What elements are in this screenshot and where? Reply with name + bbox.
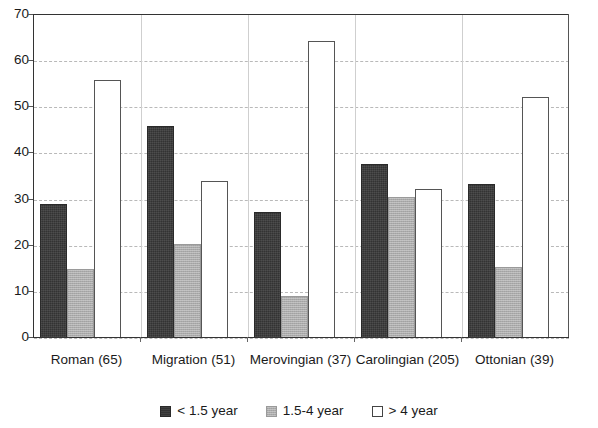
x-axis-tick-mark — [140, 337, 141, 342]
legend-entry: 1.5-4 year — [266, 404, 344, 418]
y-axis-tick-mark — [27, 291, 33, 292]
bar — [495, 267, 522, 338]
legend-swatch-icon — [160, 406, 171, 417]
y-axis-tick-mark — [27, 245, 33, 246]
x-axis-tick-label: Roman (65) — [33, 352, 140, 368]
legend-entry: > 4 year — [372, 404, 438, 418]
x-axis-tick-mark — [354, 337, 355, 342]
category-separator — [355, 15, 356, 338]
bar — [147, 126, 174, 338]
bar — [415, 189, 442, 338]
category-separator — [248, 15, 249, 338]
y-axis-tick-mark — [27, 337, 33, 338]
bar — [388, 197, 415, 338]
y-axis-tick-label: 20 — [3, 238, 29, 252]
legend-label: < 1.5 year — [177, 404, 237, 418]
legend-label: 1.5-4 year — [283, 404, 344, 418]
category-separator — [462, 15, 463, 338]
bar — [94, 80, 121, 338]
legend-swatch-icon — [266, 406, 277, 417]
plot-area — [33, 14, 569, 338]
y-axis-tick-label: 60 — [3, 53, 29, 67]
bar — [254, 212, 281, 338]
bar — [281, 296, 308, 338]
y-axis-tick-mark — [27, 199, 33, 200]
bar — [468, 184, 495, 338]
category-separator — [141, 15, 142, 338]
y-axis-tick-label: 50 — [3, 99, 29, 113]
x-axis-tick-label: Carolingian (205) — [354, 352, 461, 368]
y-axis-tick-mark — [27, 60, 33, 61]
legend-label: > 4 year — [389, 404, 438, 418]
y-axis-tick-label: 30 — [3, 192, 29, 206]
y-axis-tick-mark — [27, 152, 33, 153]
gridline — [34, 338, 569, 339]
y-axis-tick-label: 40 — [3, 145, 29, 159]
x-axis-tick-mark — [461, 337, 462, 342]
y-axis-tick-mark — [27, 106, 33, 107]
bar — [174, 244, 201, 338]
bar — [40, 204, 67, 338]
x-axis-tick-mark — [247, 337, 248, 342]
y-axis-tick-label: 70 — [3, 7, 29, 21]
gridline — [34, 61, 569, 62]
y-axis-labels: 010203040506070 — [0, 0, 29, 345]
y-axis-tick-label: 0 — [3, 330, 29, 344]
x-axis-tick-label: Ottonian (39) — [461, 352, 568, 368]
x-axis-tick-label: Merovingian (37) — [247, 352, 354, 368]
bar-chart: 010203040506070 Roman (65)Migration (51)… — [0, 0, 598, 428]
x-axis-line — [33, 337, 569, 338]
legend-swatch-icon — [372, 406, 383, 417]
bar — [201, 181, 228, 338]
y-axis-tick-mark — [27, 14, 33, 15]
bar — [308, 41, 335, 338]
plot-right-spine — [568, 14, 569, 338]
x-axis-tick-label: Migration (51) — [140, 352, 247, 368]
bar — [522, 97, 549, 338]
bar — [67, 269, 94, 338]
legend-entry: < 1.5 year — [160, 404, 237, 418]
chart-legend: < 1.5 year1.5-4 year> 4 year — [0, 399, 598, 423]
bar — [361, 164, 388, 338]
y-axis-tick-label: 10 — [3, 284, 29, 298]
